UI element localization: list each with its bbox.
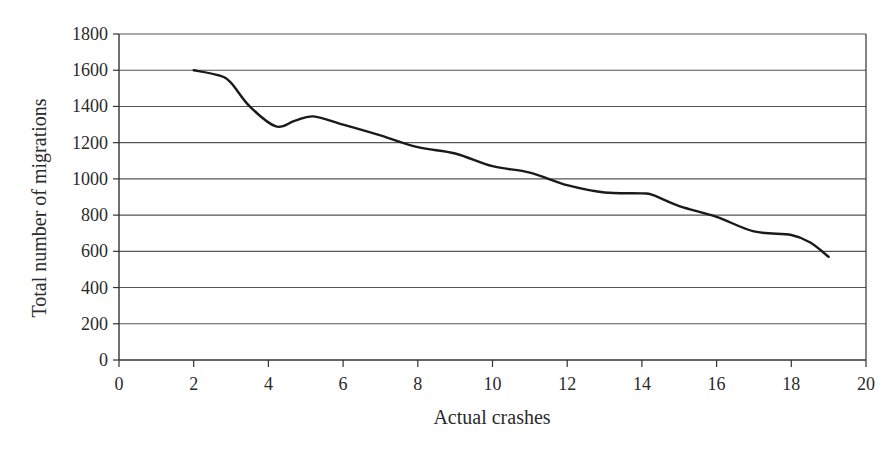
x-tick-label: 6 [339,374,348,394]
y-tick-label: 1000 [72,169,108,189]
x-axis-tick-labels: 02468101214161820 [115,374,876,394]
x-tick-label: 20 [857,374,875,394]
x-tick-label: 18 [782,374,800,394]
y-tick-label: 0 [99,350,108,370]
y-tick-label: 1200 [72,133,108,153]
y-tick-label: 800 [81,205,108,225]
y-tick-label: 1800 [72,24,108,44]
y-tick-label: 600 [81,241,108,261]
x-tick-label: 0 [115,374,124,394]
x-tick-label: 2 [189,374,198,394]
x-tick-label: 4 [264,374,273,394]
y-axis-title: Total number of migrations [28,98,51,317]
horizontal-gridlines [119,34,866,324]
y-tick-label: 400 [81,278,108,298]
y-tick-label: 1400 [72,96,108,116]
x-tick-label: 10 [484,374,502,394]
y-tick-label: 1600 [72,60,108,80]
y-axis-tick-labels: 020040060080010001200140016001800 [72,24,108,370]
data-line [194,70,829,257]
x-tick-label: 8 [413,374,422,394]
x-tick-label: 12 [558,374,576,394]
axes [113,34,866,367]
x-tick-label: 16 [708,374,726,394]
y-tick-label: 200 [81,314,108,334]
line-chart: 020040060080010001200140016001800 024681… [0,0,896,450]
x-tick-label: 14 [633,374,651,394]
x-axis-title: Actual crashes [433,406,550,428]
